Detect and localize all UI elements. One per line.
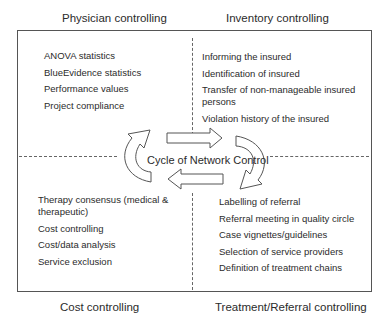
arrow-right-icon xyxy=(167,128,222,148)
arrow-left-icon xyxy=(168,169,223,189)
cycle-center-label: Cycle of Network Control xyxy=(147,154,269,166)
